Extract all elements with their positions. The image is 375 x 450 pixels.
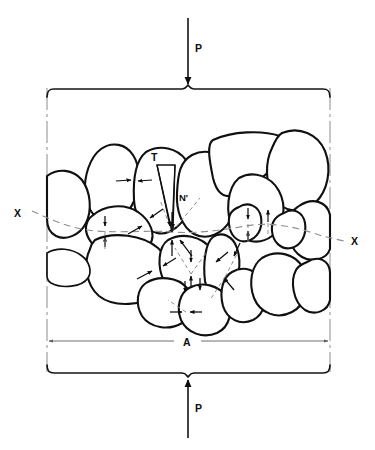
- normal-force-label: N': [179, 192, 188, 203]
- grain-particle: [272, 210, 306, 248]
- grain-particle: [293, 259, 330, 313]
- plane-label-right: X: [351, 235, 358, 247]
- area-dimension: A: [49, 336, 328, 348]
- load-arrow-top-group: P: [188, 18, 202, 84]
- load-label-top: P: [195, 42, 202, 54]
- load-label-bottom: P: [195, 402, 202, 414]
- figure-canvas: P P: [0, 0, 375, 450]
- area-label: A: [183, 336, 191, 348]
- grain-particle: [47, 171, 90, 238]
- plane-label-left: X: [14, 207, 21, 219]
- grain-particle: [229, 204, 262, 241]
- granular-assembly-diagram: P P: [0, 0, 375, 450]
- tangential-force-label: T: [151, 151, 158, 163]
- bottom-platen-brace: [47, 365, 330, 377]
- grain-assembly: [47, 129, 330, 335]
- top-platen-brace: [47, 85, 330, 97]
- load-arrow-bottom-group: P: [188, 380, 202, 438]
